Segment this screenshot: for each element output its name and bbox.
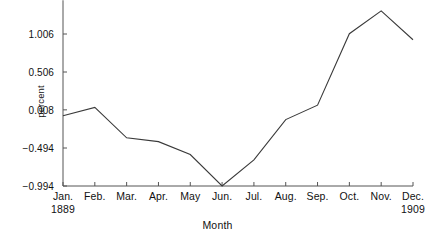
x-axis-title: Month — [0, 219, 435, 231]
x-axis-tick-sublabel: 1909 — [387, 203, 435, 215]
x-axis-tick-label: Dec. — [387, 190, 435, 202]
x-axis-tick-sublabel: 1889 — [37, 203, 89, 215]
axes — [63, 0, 413, 186]
data-series-line — [63, 11, 413, 186]
line-chart: percent 1.0060.5060.008−0.494−0.994 Jan.… — [0, 0, 435, 242]
